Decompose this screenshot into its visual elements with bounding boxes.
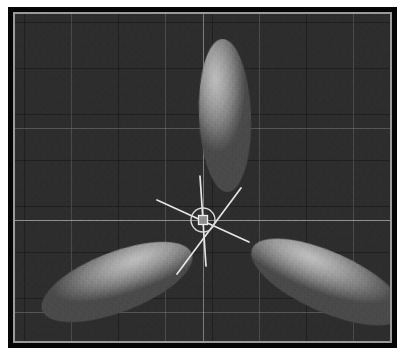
gizmo-center-handle — [199, 216, 208, 225]
viewport-bevel — [13, 12, 392, 343]
ellipsoid-top[interactable] — [196, 38, 253, 193]
viewport-noise-overlay — [15, 14, 390, 341]
gizmo-axis-handle-c — [200, 176, 206, 266]
gizmo-axis-handle-a — [157, 200, 249, 242]
world-y-axis — [203, 14, 204, 341]
gizmo-axis-handle-b — [177, 188, 241, 274]
grid-major-vertical — [71, 14, 72, 341]
ellipsoid-bottom-right[interactable] — [240, 221, 390, 341]
transform-manipulator[interactable] — [143, 172, 263, 290]
screenshot-root — [0, 0, 405, 356]
grid-minor — [15, 14, 390, 341]
ellipsoid-bottom-left[interactable] — [32, 225, 203, 338]
world-x-axis — [15, 220, 390, 221]
grid-major-vertical — [353, 14, 354, 341]
grid-major-vertical — [259, 14, 260, 341]
gizmo-trackball-ring — [191, 208, 215, 232]
perspective-viewport[interactable] — [15, 14, 390, 341]
viewport-frame — [8, 7, 397, 348]
grid-major-horizontal — [15, 128, 390, 129]
grid-major-horizontal — [15, 312, 390, 313]
grid-major-vertical — [165, 14, 166, 341]
